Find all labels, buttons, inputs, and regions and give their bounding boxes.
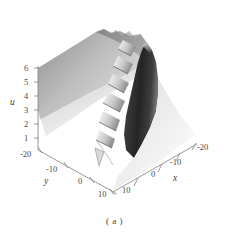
- x-tick-label-10: 10: [122, 186, 131, 195]
- surface-valley-spike: [95, 148, 104, 166]
- x-axis-label: x: [173, 174, 177, 184]
- u-tick-label-1: 1: [24, 134, 28, 143]
- u-tick-label-6: 6: [24, 64, 28, 73]
- y-tick-label-m10: -10: [46, 165, 57, 174]
- figure-caption: ( a ): [0, 216, 229, 226]
- u-tick-label-2: 2: [24, 120, 28, 129]
- x-tick-label-m10: -10: [170, 158, 181, 167]
- figure-3d-surface-plot: 6 5 4 3 2 1 u -20 -10 0 10 y 10 0 -10 -2…: [0, 0, 229, 241]
- y-tick-label-0: 0: [78, 177, 82, 186]
- u-tick-label-4: 4: [24, 92, 28, 101]
- y-axis-label: y: [44, 177, 48, 187]
- y-tick-0: [90, 177, 94, 183]
- y-tick-label-m20: -20: [20, 150, 31, 159]
- x-tick-label-m20: -20: [197, 143, 208, 152]
- y-tick-label-10: 10: [98, 190, 107, 199]
- u-tick-label-3: 3: [24, 106, 28, 115]
- u-axis-label: u: [10, 98, 15, 108]
- u-tick-label-5: 5: [24, 78, 28, 87]
- x-tick-label-0: 0: [151, 170, 155, 179]
- surface-plot-canvas: [0, 0, 229, 241]
